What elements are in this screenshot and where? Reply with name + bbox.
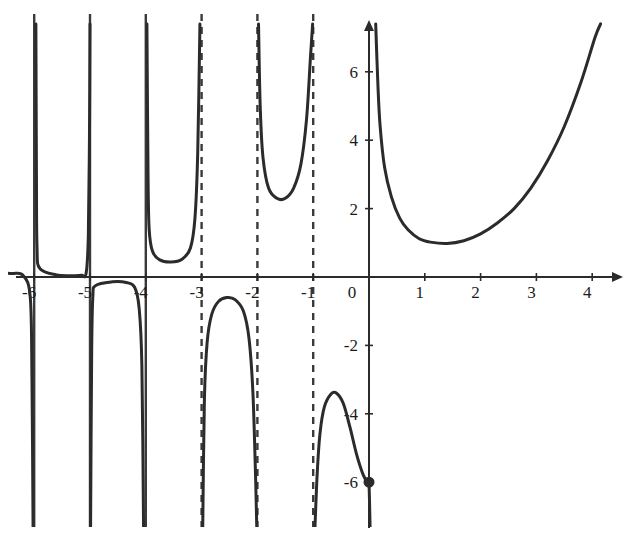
y-tick-label-5: 6 — [350, 63, 359, 82]
curve-branch-minus4-to-minus3-upper — [147, 24, 200, 262]
curve-branch-minus2-to-minus1-upper — [259, 24, 313, 200]
y-tick-label-3: 2 — [350, 200, 359, 219]
curve-branch-zero-descending — [369, 482, 370, 530]
curve-branch-left-of-minus6 — [1, 273, 33, 530]
x-tick-label-7: 1 — [416, 283, 425, 302]
origin-label: 0 — [348, 283, 357, 302]
curve-branch-minus3-to-minus2-lower — [203, 297, 257, 530]
marked-point-0 — [365, 478, 374, 487]
y-tick-label-0: -6 — [344, 473, 358, 492]
x-tick-label-9: 3 — [527, 283, 536, 302]
y-axis-arrow — [364, 20, 374, 31]
plot-canvas: -6-5-4-3-2-101234-6-4-2246 — [0, 0, 627, 535]
curve-branch-minus1-to-zero-lower — [315, 392, 369, 530]
x-tick-label-4: -2 — [245, 283, 259, 302]
y-tick-label-4: 4 — [350, 131, 359, 150]
curve-branch-minus5-to-minus4-lower — [91, 282, 144, 531]
x-tick-label-8: 2 — [471, 283, 480, 302]
curve-branch-minus6-to-minus5-upper — [36, 24, 90, 277]
x-tick-label-10: 4 — [583, 283, 592, 302]
curve-branch-right-of-zero — [376, 24, 601, 244]
x-tick-label-3: -3 — [190, 283, 204, 302]
x-tick-label-5: -1 — [301, 283, 315, 302]
chart-figure: -6-5-4-3-2-101234-6-4-2246 — [0, 0, 627, 535]
x-axis-arrow — [612, 272, 623, 282]
x-tick-label-1: -5 — [78, 283, 92, 302]
y-tick-label-2: -2 — [344, 336, 358, 355]
